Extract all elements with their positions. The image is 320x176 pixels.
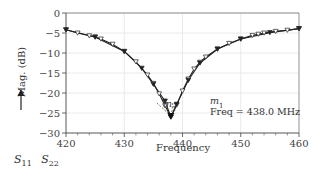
s-parameter-chart: 0−5−10−15−20−25−30420430440450460 Mag. (… (0, 0, 320, 176)
x-tick-label: 450 (231, 138, 250, 149)
x-axis-label: Frequency (156, 142, 210, 153)
y-tick-label: −10 (39, 48, 60, 59)
y-tick-label: −15 (39, 68, 60, 79)
y-tick-label: 0 (54, 8, 60, 19)
y-tick-label: −25 (39, 108, 60, 119)
axes: 0−5−10−15−20−25−30420430440450460 (39, 8, 309, 150)
x-tick-label: 460 (289, 138, 308, 149)
y-axis-label: Mag. (dB) (16, 47, 27, 98)
x-tick-label: 430 (115, 138, 134, 149)
x-tick-label: 420 (56, 138, 75, 149)
legend-s11: S11 (14, 153, 32, 166)
y-tick-label: −20 (39, 88, 60, 99)
data-point-marker-icon (180, 89, 185, 93)
y-tick-label: −30 (39, 128, 60, 139)
marker-frequency-text: Freq = 438.0 MHz (210, 106, 300, 117)
legend: S11 S22 (14, 153, 65, 168)
legend-s22: S22 (41, 153, 59, 166)
y-tick-label: −5 (45, 28, 60, 39)
marker-triangle-icon (167, 113, 174, 119)
